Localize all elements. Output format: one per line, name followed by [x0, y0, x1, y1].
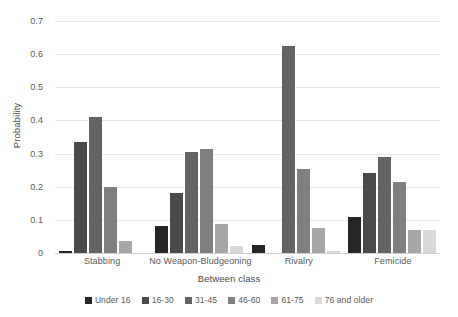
bar[interactable]: [252, 245, 265, 253]
bar-group: [55, 21, 151, 253]
bar[interactable]: [230, 246, 243, 253]
bar[interactable]: [363, 173, 376, 253]
bar[interactable]: [59, 251, 72, 253]
legend-item[interactable]: 31-45: [185, 295, 217, 305]
bar[interactable]: [297, 169, 310, 254]
bar-slot: [297, 21, 310, 253]
legend-item-label: 16-30: [152, 295, 174, 305]
bar-slot: [230, 21, 243, 253]
legend-swatch-icon: [228, 297, 235, 304]
bar-slot: [393, 21, 406, 253]
y-axis-tick-label: 0.1: [30, 215, 43, 225]
legend-item-label: Under 16: [95, 295, 131, 305]
bar[interactable]: [423, 230, 436, 253]
bar[interactable]: [312, 228, 325, 253]
y-axis-tick-label: 0.2: [30, 182, 43, 192]
bar[interactable]: [200, 149, 213, 253]
y-axis-tick-label: 0.4: [30, 115, 43, 125]
legend-swatch-icon: [315, 297, 322, 304]
legend-item-label: 46-60: [238, 295, 260, 305]
bar[interactable]: [155, 226, 168, 253]
bar[interactable]: [185, 152, 198, 253]
bar-slot: [252, 21, 265, 253]
bar[interactable]: [74, 142, 87, 253]
x-axis-tick-label: Femicide: [346, 256, 440, 266]
legend-item[interactable]: 61-75: [271, 295, 303, 305]
x-axis-title: Between class: [0, 273, 458, 284]
legend-swatch-icon: [142, 297, 149, 304]
legend-swatch-icon: [85, 297, 92, 304]
bar-slot: [348, 21, 361, 253]
bar-slot: [267, 21, 280, 253]
bar-group: [344, 21, 440, 253]
bar-group: [248, 21, 344, 253]
gridline: [55, 253, 440, 254]
legend-item-label: 61-75: [281, 295, 303, 305]
bar-slot: [155, 21, 168, 253]
legend-item-label: 76 and older: [325, 295, 373, 305]
bar-slot: [185, 21, 198, 253]
bar-slot: [282, 21, 295, 253]
bar-groups: [55, 21, 440, 253]
bar-slot: [134, 21, 147, 253]
y-axis-tick-label: 0: [38, 248, 43, 258]
bar[interactable]: [378, 157, 391, 253]
bar-slot: [89, 21, 102, 253]
chart-legend: Under 1616-3031-4546-6061-7576 and older: [0, 295, 458, 305]
bar[interactable]: [119, 241, 132, 253]
bar-slot: [312, 21, 325, 253]
bar-slot: [170, 21, 183, 253]
bar[interactable]: [215, 224, 228, 253]
legend-swatch-icon: [185, 297, 192, 304]
bar[interactable]: [282, 46, 295, 253]
bar[interactable]: [393, 182, 406, 253]
y-axis-tick-labels: 0.70.60.50.40.30.20.10: [0, 21, 50, 253]
bar-slot: [104, 21, 117, 253]
bar[interactable]: [89, 117, 102, 253]
x-axis-tick-labels: StabbingNo Weapon-BludgeoningRivalryFemi…: [55, 256, 440, 266]
legend-item-label: 31-45: [195, 295, 217, 305]
bar[interactable]: [327, 251, 340, 253]
bar[interactable]: [348, 217, 361, 253]
legend-item[interactable]: 76 and older: [315, 295, 373, 305]
bar-group: [151, 21, 247, 253]
y-axis-tick-label: 0.6: [30, 49, 43, 59]
x-axis-tick-label: Stabbing: [55, 256, 149, 266]
bar-chart: Probability 0.70.60.50.40.30.20.10 Stabb…: [0, 0, 458, 317]
plot-area: [55, 21, 440, 253]
bar[interactable]: [104, 187, 117, 253]
y-axis-tick-label: 0.3: [30, 149, 43, 159]
bar-slot: [200, 21, 213, 253]
legend-item[interactable]: Under 16: [85, 295, 131, 305]
x-axis-tick-label: No Weapon-Bludgeoning: [149, 256, 252, 266]
legend-swatch-icon: [271, 297, 278, 304]
y-axis-tick-label: 0.7: [30, 16, 43, 26]
bar-slot: [119, 21, 132, 253]
bar-slot: [59, 21, 72, 253]
legend-item[interactable]: 46-60: [228, 295, 260, 305]
bar-slot: [408, 21, 421, 253]
bar-slot: [327, 21, 340, 253]
y-axis-tick-label: 0.5: [30, 82, 43, 92]
bar-slot: [423, 21, 436, 253]
bar[interactable]: [408, 230, 421, 253]
bar-slot: [74, 21, 87, 253]
bar-slot: [215, 21, 228, 253]
x-axis-tick-label: Rivalry: [252, 256, 346, 266]
legend-item[interactable]: 16-30: [142, 295, 174, 305]
bar-slot: [363, 21, 376, 253]
bar-slot: [378, 21, 391, 253]
bar[interactable]: [170, 193, 183, 253]
